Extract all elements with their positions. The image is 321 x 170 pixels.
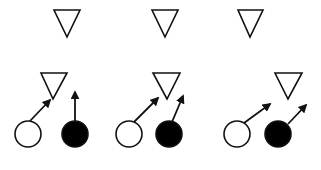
panel-2	[116, 10, 183, 147]
black-circle-icon	[62, 121, 88, 147]
diagram-svg	[0, 0, 321, 170]
middle-triangle-icon	[153, 73, 180, 99]
white-circle-arrow-icon	[134, 98, 158, 122]
white-circle-icon	[15, 121, 41, 147]
black-circle-arrow-icon	[288, 105, 306, 124]
top-triangle-icon	[238, 10, 263, 37]
middle-triangle-icon	[275, 73, 302, 99]
middle-triangle-icon	[41, 73, 67, 99]
top-triangle-icon	[54, 10, 80, 37]
panel-1	[15, 10, 88, 147]
white-circle-arrow-icon	[30, 100, 50, 121]
black-circle-icon	[156, 121, 182, 147]
white-circle-icon	[224, 121, 250, 147]
white-circle-arrow-icon	[244, 104, 270, 123]
play-diagram	[0, 0, 321, 170]
black-circle-icon	[265, 121, 291, 147]
black-circle-arrow-icon	[172, 96, 183, 122]
panel-3	[224, 10, 306, 147]
white-circle-icon	[116, 121, 142, 147]
top-triangle-icon	[152, 10, 178, 37]
